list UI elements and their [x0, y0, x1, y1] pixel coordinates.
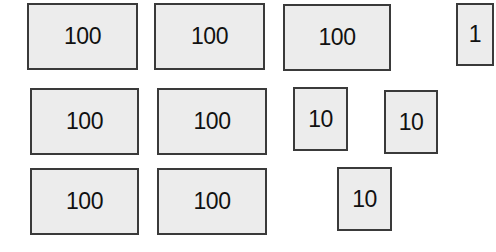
block-label: 10 — [399, 109, 424, 136]
block-hundred: 100 — [30, 88, 139, 155]
block-hundred: 100 — [283, 4, 391, 71]
block-ten: 10 — [384, 90, 438, 154]
block-hundred: 100 — [157, 88, 267, 155]
block-one: 1 — [456, 3, 494, 66]
block-label: 1 — [469, 21, 481, 48]
block-hundred: 100 — [154, 3, 265, 70]
block-label: 10 — [352, 186, 377, 213]
block-label: 100 — [66, 188, 103, 215]
block-ten: 10 — [293, 87, 348, 151]
block-label: 100 — [66, 108, 103, 135]
block-label: 100 — [319, 24, 356, 51]
block-ten: 10 — [337, 167, 392, 231]
block-hundred: 100 — [157, 168, 267, 235]
block-hundred: 100 — [27, 3, 138, 70]
block-label: 10 — [308, 106, 333, 133]
block-hundred: 100 — [30, 168, 139, 235]
block-label: 100 — [191, 23, 228, 50]
block-label: 100 — [194, 108, 231, 135]
block-label: 100 — [194, 188, 231, 215]
block-label: 100 — [64, 23, 101, 50]
